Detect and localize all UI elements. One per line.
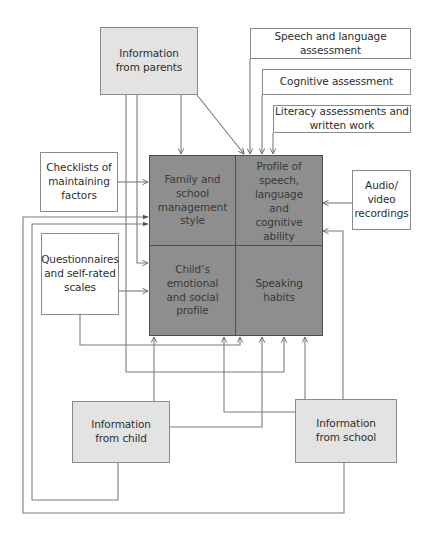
node-label: Literacy assessments and written work xyxy=(275,105,409,133)
node-speech-language-assessment: Speech and language assessment xyxy=(250,28,411,59)
node-information-from-parents: Information from parents xyxy=(100,27,198,95)
node-family-school-management: Family and school management style xyxy=(149,155,236,246)
node-label: Information from child xyxy=(91,418,151,446)
node-audio-video-recordings: Audio/ video recordings xyxy=(352,170,411,230)
node-literacy-assessments: Literacy assessments and written work xyxy=(273,105,411,133)
node-label: Information from parents xyxy=(116,47,182,75)
node-label: Family and school management style xyxy=(158,173,227,229)
node-cognitive-assessment: Cognitive assessment xyxy=(262,69,411,95)
node-label: Audio/ video recordings xyxy=(354,179,408,221)
node-label: Speech and language assessment xyxy=(274,30,386,58)
node-information-from-child: Information from child xyxy=(72,401,170,463)
node-label: Questionnaires and self-rated scales xyxy=(41,253,119,295)
node-emotional-social-profile: Child’s emotional and social profile xyxy=(149,245,236,336)
node-label: Cognitive assessment xyxy=(280,75,393,89)
node-label: Child’s emotional and social profile xyxy=(166,263,218,319)
node-speaking-habits: Speaking habits xyxy=(235,245,323,336)
assessment-diagram: Information from parents Information fro… xyxy=(0,0,434,534)
node-label: Checklists of maintaining factors xyxy=(46,161,111,203)
node-checklists: Checklists of maintaining factors xyxy=(40,152,118,212)
node-profile-speech-language: Profile of speech, language and cognitiv… xyxy=(235,155,323,246)
node-information-from-school: Information from school xyxy=(295,399,397,463)
node-label: Profile of speech, language and cognitiv… xyxy=(236,160,322,244)
node-label: Information from school xyxy=(316,417,376,445)
node-label: Speaking habits xyxy=(255,277,303,305)
node-questionnaires: Questionnaires and self-rated scales xyxy=(41,233,119,315)
